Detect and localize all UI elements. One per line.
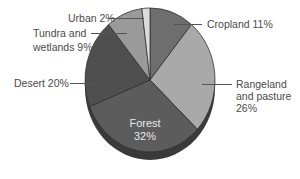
label-tundra-line1: Tundra and (33, 27, 86, 39)
label-cropland: Cropland 11% (207, 18, 273, 30)
rangeland-leader-line (202, 84, 232, 85)
label-urban: Urban 2% (68, 12, 115, 24)
label-forest-line2: 32% (125, 130, 165, 143)
cropland-leader-line (174, 24, 202, 25)
desert-leader-line (70, 83, 98, 84)
label-tundra-line2: wetlands 9% (33, 41, 93, 53)
label-rangeland-line3: 26% (236, 102, 257, 114)
label-rangeland-line2: and pasture (236, 90, 291, 102)
label-rangeland-line1: Rangeland (236, 78, 287, 90)
label-desert: Desert 20% (14, 77, 69, 89)
label-forest-line1: Forest (125, 117, 165, 130)
tundra-leader-line (91, 33, 127, 34)
